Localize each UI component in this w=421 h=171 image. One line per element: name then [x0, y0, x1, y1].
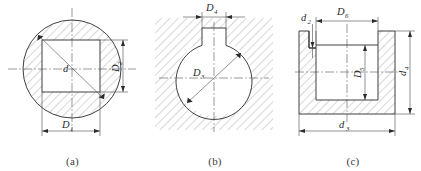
figure-b-caption: (b) [145, 155, 285, 167]
dim-d2c-letter: d [301, 12, 307, 23]
figure-b-drawing: D 3 D 4 [145, 0, 285, 150]
dim-d4c-subscript: 4 [403, 66, 410, 70]
dim-d3c-subscript: 3 [345, 125, 350, 132]
figure-c-caption: (c) [285, 155, 421, 167]
dim-d3-subscript: 3 [200, 73, 205, 80]
dim-d3-letter: D [192, 67, 201, 78]
figure-b: D 3 D 4 (b) [145, 0, 285, 171]
dim-d5-subscript: 5 [358, 67, 365, 71]
hatch-region-b [145, 0, 285, 150]
figure-a: d D 2 D 1 [0, 0, 145, 171]
figure-a-caption: (a) [0, 155, 145, 167]
figure-a-drawing: d D 2 D 1 [0, 0, 145, 150]
dim-d4-letter: D [205, 2, 214, 13]
dim-d4-subscript: 4 [214, 8, 218, 15]
dim-d3c-letter: d [339, 119, 345, 130]
dim-d2c-subscript: 2 [308, 18, 312, 25]
figure-c-drawing: d 2 D 6 D 5 [285, 0, 421, 150]
dim-d2-subscript: 2 [116, 61, 123, 65]
dim-d6-subscript: 6 [345, 12, 349, 19]
figure-c: d 2 D 6 D 5 [285, 0, 421, 171]
dim-d6-letter: D [336, 6, 345, 17]
dim-d1-subscript: 1 [70, 125, 73, 132]
dim-label-d: d [63, 63, 69, 74]
figure-sheet: d D 2 D 1 [0, 0, 421, 171]
dim-label-d-letter: d [63, 63, 69, 74]
dim-d1-letter: D [61, 119, 70, 130]
